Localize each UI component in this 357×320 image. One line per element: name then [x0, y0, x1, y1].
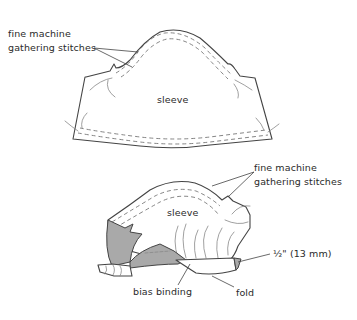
bottom-leader-line-1 [212, 172, 254, 186]
bottom-label-gathering-line2: gathering stitches [254, 176, 342, 188]
bias-binding-band [176, 258, 236, 274]
underarm-curve-right [235, 80, 252, 90]
fold-label: fold [236, 287, 254, 299]
flat-sleeve-outline [73, 30, 272, 148]
measurement-leader-line [238, 254, 270, 262]
cap-stitch-line-outer [116, 33, 232, 75]
bottom-leader-line-2 [228, 172, 254, 197]
top-label-sleeve: sleeve [157, 94, 188, 106]
top-label-gathering-line2: gathering stitches [8, 42, 96, 54]
measurement-label: ½" (13 mm) [273, 248, 332, 260]
underarm-curve-left-2 [107, 80, 115, 97]
hem-curl-left [82, 113, 87, 128]
bias-binding-label: bias binding [133, 286, 192, 298]
underarm-curve-right-2 [234, 84, 239, 98]
ruffled-cuff-left [98, 264, 132, 276]
hem-extension-right [268, 124, 279, 132]
fold-leader-line [212, 276, 234, 287]
bottom-label-sleeve: sleeve [167, 207, 198, 219]
underarm-curve-left [90, 78, 112, 90]
bottom-label-gathering-line1: fine machine [254, 162, 317, 174]
cap-stitch-line-inner [121, 39, 228, 79]
hem-curl-right [256, 118, 264, 130]
bias-binding-leader-line [178, 264, 190, 285]
top-label-gathering-line1: fine machine [8, 28, 71, 40]
sewing-diagram: fine machine gathering stitches sleeve f… [0, 0, 357, 320]
